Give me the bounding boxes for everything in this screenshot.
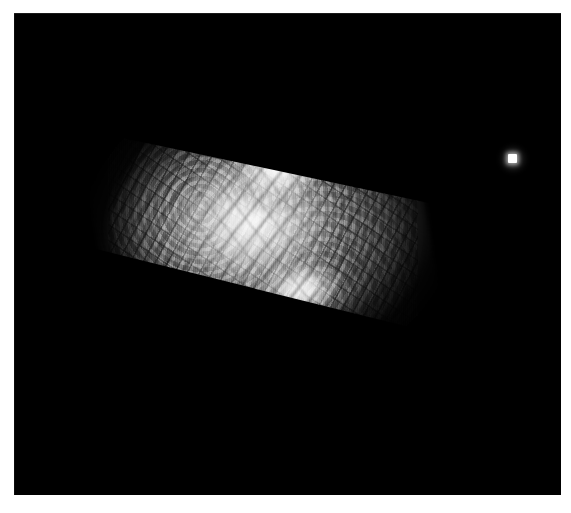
star-point-source: [508, 154, 517, 163]
extended-diffuse-source: [108, 92, 418, 382]
page-canvas: [0, 0, 571, 513]
astronomical-image-frame: [14, 13, 561, 495]
